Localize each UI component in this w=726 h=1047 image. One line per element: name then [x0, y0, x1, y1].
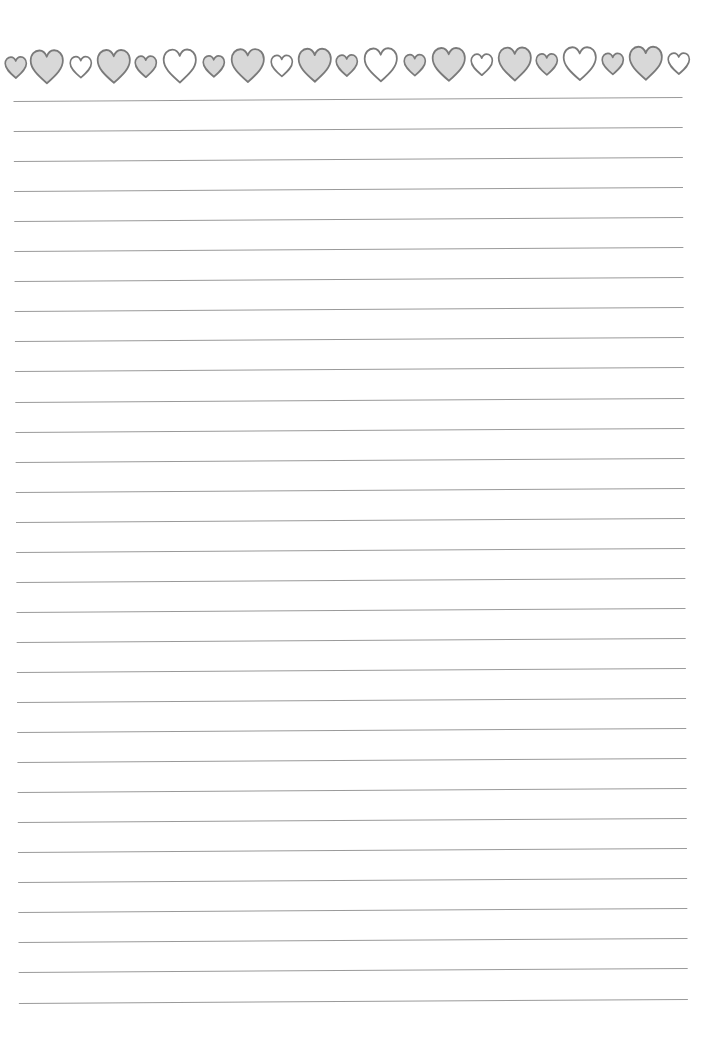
ruled-line [16, 518, 685, 523]
ruled-line [17, 698, 686, 703]
ruled-line [14, 187, 683, 192]
ruled-line [18, 818, 687, 823]
ruled-line [18, 788, 687, 793]
ruled-line [15, 337, 684, 342]
ruled-line [14, 97, 683, 102]
ruled-line [15, 367, 684, 372]
ruled-line [16, 488, 685, 493]
ruled-line [15, 277, 684, 282]
ruled-line [17, 728, 686, 733]
ruled-line [15, 398, 684, 403]
ruled-line [14, 247, 683, 252]
ruled-line [16, 548, 685, 553]
ruled-line [18, 938, 687, 943]
ruled-line [16, 578, 685, 583]
ruled-line [14, 217, 683, 222]
ruled-line [16, 458, 685, 463]
ruled-line [14, 157, 683, 162]
ruled-lines [0, 0, 726, 1047]
ruled-line [19, 999, 688, 1004]
ruled-line [15, 307, 684, 312]
ruled-line [17, 668, 686, 673]
ruled-line [17, 638, 686, 643]
ruled-line [19, 968, 688, 973]
lined-paper-sheet [0, 0, 726, 1047]
ruled-line [18, 908, 687, 913]
ruled-line [14, 127, 683, 132]
ruled-line [15, 428, 684, 433]
ruled-line [17, 608, 686, 613]
ruled-line [17, 758, 686, 763]
ruled-line [18, 848, 687, 853]
ruled-line [18, 878, 687, 883]
